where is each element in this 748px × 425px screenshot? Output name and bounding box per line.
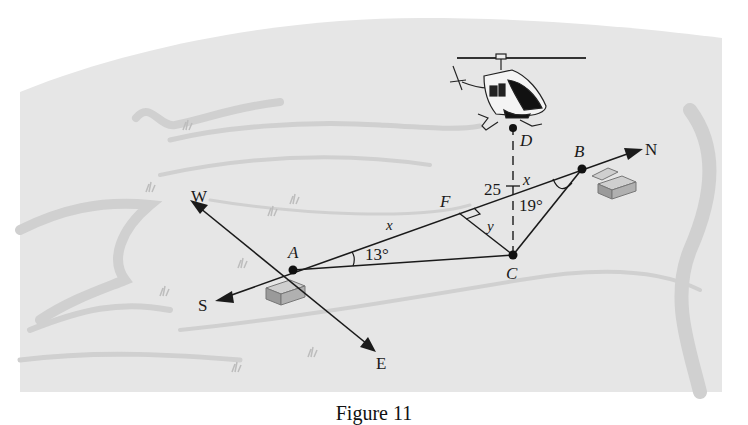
segment-fc-label: y <box>485 218 494 234</box>
point-f-label: F <box>439 192 451 211</box>
point-b <box>578 165 587 174</box>
direction-east-label: E <box>376 354 386 373</box>
angle-b-label: 19° <box>519 196 543 215</box>
segment-fb-variable-label: x <box>522 171 530 188</box>
point-d <box>509 124 517 132</box>
direction-north-label: N <box>645 140 657 159</box>
point-d-label: D <box>519 131 533 150</box>
direction-west-label: W <box>191 187 208 206</box>
direction-south-label: S <box>198 296 207 315</box>
segment-fb-number-label: 25 <box>484 180 501 199</box>
segment-af-label: x <box>385 217 393 233</box>
point-c <box>509 251 518 260</box>
point-c-label: C <box>506 264 518 283</box>
figure-caption: Figure 11 <box>0 402 748 425</box>
point-a <box>289 266 298 275</box>
point-a-label: A <box>287 243 299 262</box>
point-b-label: B <box>574 142 585 161</box>
angle-a-label: 13° <box>365 245 389 264</box>
